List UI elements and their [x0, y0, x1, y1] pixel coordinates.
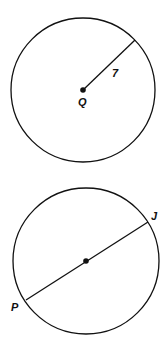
center-point-q — [80, 87, 86, 93]
radius-label: 7 — [112, 67, 119, 79]
center-point — [83, 258, 89, 264]
radius-segment — [83, 40, 135, 90]
endpoint-label-j: J — [151, 210, 158, 222]
geometry-figure: 7 Q J P — [0, 0, 166, 355]
circle-pj-figure: J P — [11, 188, 159, 334]
endpoint-label-p: P — [11, 301, 19, 313]
circle-q-figure: 7 Q — [11, 18, 155, 162]
center-label-q: Q — [78, 96, 87, 108]
